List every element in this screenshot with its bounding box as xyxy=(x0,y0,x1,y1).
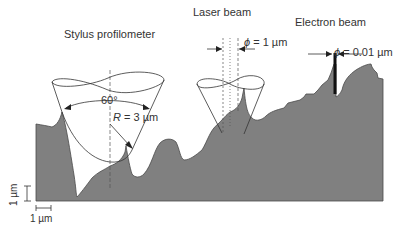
surface-diagram xyxy=(0,0,393,237)
vertical-scale-bar xyxy=(24,186,31,201)
stylus-title: Stylus profilometer xyxy=(64,28,155,40)
electron-phi-value: = 0.01 µm xyxy=(340,46,393,58)
angle-arrow-left xyxy=(64,104,71,110)
surface-profile xyxy=(36,64,383,201)
radius-value: = 3 µm xyxy=(121,111,158,123)
laser-diameter-label: ϕ = 1 µm xyxy=(244,36,287,48)
vertical-scale-label: 1 µm xyxy=(8,184,19,206)
laser-phi-value: = 1 µm xyxy=(250,36,287,48)
laser-title: Laser beam xyxy=(193,6,251,18)
electron-arrowhead-left xyxy=(326,51,332,57)
laser-arrowhead-left xyxy=(216,46,222,52)
radius-symbol: R xyxy=(113,111,121,123)
electron-diameter-label: ϕ = 0.01 µm xyxy=(334,46,393,58)
horizontal-scale-bar xyxy=(36,205,51,211)
horizontal-scale-label: 1 µm xyxy=(30,213,52,224)
angle-arrow-right xyxy=(143,104,150,110)
angle-label: 60° xyxy=(101,94,118,106)
electron-beam xyxy=(334,53,337,94)
electron-title: Electron beam xyxy=(295,16,366,28)
radius-arrow-line xyxy=(110,124,130,146)
radius-label: R = 3 µm xyxy=(113,111,158,123)
